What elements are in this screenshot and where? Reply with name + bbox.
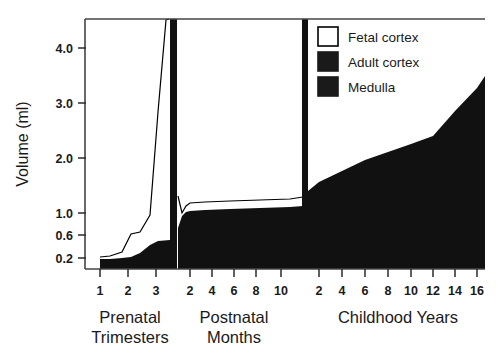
y-tick-label-0.6: 0.6 bbox=[56, 229, 73, 243]
x-tick-label-prenatal-3: 3 bbox=[153, 284, 160, 298]
section-title-postnatal-line2: Months bbox=[207, 328, 261, 346]
x-tick-label-childhood-8: 8 bbox=[385, 284, 392, 298]
x-tick-label-prenatal-2: 2 bbox=[125, 284, 132, 298]
x-tick-label-childhood-6: 6 bbox=[362, 284, 369, 298]
x-tick-label-childhood-10: 10 bbox=[404, 284, 418, 298]
x-tick-label-childhood-16: 16 bbox=[470, 284, 484, 298]
panel-divider-postnatal-childhood bbox=[302, 19, 308, 269]
x-tick-label-postnatal-4: 4 bbox=[209, 284, 216, 298]
postnatal-adult-cortex-area bbox=[178, 206, 303, 269]
x-ticks-postnatal bbox=[190, 269, 281, 277]
x-tick-label-childhood-12: 12 bbox=[426, 284, 440, 298]
x-tick-labels-childhood: 2 4 6 8 10 12 14 16 bbox=[316, 284, 484, 298]
section-title-prenatal-line2: Trimesters bbox=[91, 328, 168, 346]
x-tick-label-prenatal-1: 1 bbox=[97, 284, 104, 298]
y-axis-title: Volume (ml) bbox=[14, 101, 31, 186]
legend-swatch-fetal-cortex bbox=[318, 27, 338, 46]
y-tick-label-4.0: 4.0 bbox=[56, 42, 73, 56]
x-ticks-prenatal bbox=[100, 269, 156, 277]
section-title-prenatal-line1: Prenatal bbox=[99, 308, 160, 326]
y-tick-label-1.0: 1.0 bbox=[56, 207, 73, 221]
x-tick-label-postnatal-2: 2 bbox=[187, 284, 194, 298]
legend-label-fetal-cortex: Fetal cortex bbox=[348, 30, 419, 45]
x-tick-label-childhood-4: 4 bbox=[339, 284, 346, 298]
legend-item-medulla: Medulla bbox=[318, 77, 396, 96]
legend-label-adult-cortex: Adult cortex bbox=[348, 55, 420, 70]
legend-label-medulla: Medulla bbox=[348, 80, 396, 95]
legend-swatch-medulla bbox=[318, 77, 338, 96]
x-tick-label-postnatal-10: 10 bbox=[274, 284, 288, 298]
x-tick-labels-prenatal: 1 2 3 bbox=[97, 284, 160, 298]
x-tick-label-childhood-14: 14 bbox=[448, 284, 462, 298]
y-tick-label-0.2: 0.2 bbox=[56, 252, 73, 266]
x-tick-label-postnatal-6: 6 bbox=[231, 284, 238, 298]
y-axis-tick-labels: 4.0 3.0 2.0 1.0 0.6 0.2 bbox=[56, 42, 73, 266]
y-tick-label-3.0: 3.0 bbox=[56, 97, 73, 111]
adrenal-volume-chart: 4.0 3.0 2.0 1.0 0.6 0.2 Volume (ml) 1 2 … bbox=[0, 0, 498, 358]
legend-swatch-adult-cortex bbox=[318, 52, 338, 71]
x-ticks-childhood bbox=[319, 269, 477, 277]
legend-item-adult-cortex: Adult cortex bbox=[318, 52, 420, 71]
y-tick-label-2.0: 2.0 bbox=[56, 152, 73, 166]
section-title-childhood: Childhood Years bbox=[338, 308, 458, 326]
x-tick-label-postnatal-8: 8 bbox=[253, 284, 260, 298]
x-tick-labels-postnatal: 2 4 6 8 10 bbox=[187, 284, 288, 298]
panel-divider-prenatal-postnatal bbox=[170, 19, 177, 269]
figure-container: 4.0 3.0 2.0 1.0 0.6 0.2 Volume (ml) 1 2 … bbox=[0, 0, 498, 358]
legend-item-fetal-cortex: Fetal cortex bbox=[318, 27, 419, 46]
section-title-postnatal-line1: Postnatal bbox=[200, 308, 269, 326]
x-tick-label-childhood-2: 2 bbox=[316, 284, 323, 298]
